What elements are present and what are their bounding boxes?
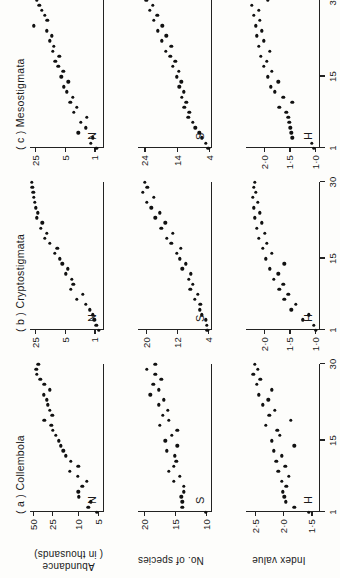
- data-point: [182, 90, 185, 93]
- data-point: [162, 398, 165, 401]
- data-point: [65, 90, 68, 93]
- data-point: [86, 505, 89, 508]
- data-point-layer: [246, 364, 320, 512]
- data-point: [156, 29, 159, 32]
- data-point: [290, 308, 293, 311]
- y-tick-label: 1·0: [309, 337, 320, 351]
- data-point-layer: [138, 364, 212, 512]
- data-point: [59, 75, 62, 78]
- y-tick-label: 4: [203, 337, 214, 342]
- data-point: [89, 141, 92, 144]
- y-tick: [311, 512, 312, 517]
- data-point: [172, 464, 175, 467]
- y-tick-label: 2·5: [249, 519, 260, 533]
- data-point: [293, 505, 296, 508]
- plot-panel-a-S: S101520: [138, 364, 212, 512]
- data-point: [281, 490, 284, 493]
- y-tick: [289, 330, 290, 335]
- data-point: [181, 505, 184, 508]
- data-point-layer: [30, 0, 104, 148]
- data-point: [141, 191, 144, 194]
- data-point: [37, 362, 40, 365]
- data-point: [182, 490, 185, 493]
- data-point: [204, 141, 207, 144]
- data-point: [289, 126, 292, 129]
- y-tick-label: 4: [203, 155, 214, 160]
- data-point: [39, 226, 42, 229]
- data-point: [251, 196, 254, 199]
- data-point: [171, 231, 174, 234]
- data-point: [81, 485, 84, 488]
- data-point: [51, 429, 54, 432]
- y-tick: [144, 148, 145, 153]
- data-point: [274, 459, 277, 462]
- y-tick: [65, 330, 66, 335]
- data-point: [170, 242, 173, 245]
- data-point: [81, 293, 84, 296]
- data-point: [89, 500, 92, 503]
- data-point: [265, 242, 268, 245]
- y-tick-label: 14: [171, 155, 182, 166]
- data-point: [261, 247, 264, 250]
- y-axis-title-line2: ( in thousands): [21, 549, 117, 561]
- data-point: [270, 70, 273, 73]
- data-point: [164, 221, 167, 224]
- y-tick-label: 20: [140, 337, 151, 348]
- data-point: [310, 141, 313, 144]
- data-point: [282, 282, 285, 285]
- data-point: [254, 191, 257, 194]
- data-point: [273, 90, 276, 93]
- data-point: [153, 216, 156, 219]
- y-tick-label: 15: [170, 519, 181, 530]
- data-point: [285, 485, 288, 488]
- data-point: [46, 403, 49, 406]
- x-tick: [320, 329, 325, 330]
- data-point: [283, 298, 286, 301]
- data-point: [31, 191, 34, 194]
- data-point: [184, 262, 187, 265]
- data-point: [171, 65, 174, 68]
- data-point: [174, 60, 177, 63]
- data-point: [49, 424, 52, 427]
- data-point: [182, 485, 185, 488]
- data-point: [272, 277, 275, 280]
- data-point: [76, 131, 79, 134]
- data-point: [154, 373, 157, 376]
- y-tick-label: 10: [73, 519, 84, 530]
- data-point: [273, 408, 276, 411]
- y-tick: [33, 512, 34, 517]
- data-point: [183, 105, 186, 108]
- data-point: [58, 257, 61, 260]
- x-tick: [320, 147, 325, 148]
- data-point: [167, 469, 170, 472]
- data-point: [253, 216, 256, 219]
- y-tick: [255, 512, 256, 517]
- data-point: [30, 180, 33, 183]
- y-tick: [146, 330, 147, 335]
- panel-heading-c-N: ( c ) Mesostigmata: [14, 58, 26, 150]
- data-point: [54, 434, 57, 437]
- y-tick-label: 50: [27, 519, 38, 530]
- data-point: [301, 318, 304, 321]
- y-tick: [65, 148, 66, 153]
- y-tick: [177, 148, 178, 153]
- data-point: [282, 95, 285, 98]
- data-point: [152, 19, 155, 22]
- data-point: [51, 49, 54, 52]
- y-tick-label: 1: [89, 155, 100, 160]
- data-point: [72, 282, 75, 285]
- data-point: [166, 408, 169, 411]
- data-point: [145, 201, 148, 204]
- data-point: [45, 398, 48, 401]
- data-point: [160, 39, 163, 42]
- data-point: [185, 100, 188, 103]
- data-point: [173, 454, 176, 457]
- data-point-layer: [30, 364, 104, 512]
- data-point: [255, 226, 258, 229]
- data-point: [290, 131, 293, 134]
- y-tick-label: 5: [59, 155, 70, 160]
- data-point: [266, 75, 269, 78]
- data-point: [191, 282, 194, 285]
- data-point: [145, 0, 148, 2]
- data-point: [276, 272, 279, 275]
